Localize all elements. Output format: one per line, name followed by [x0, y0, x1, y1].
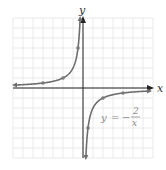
data-point [86, 126, 90, 130]
equation-denominator: x [132, 118, 137, 128]
data-point [101, 96, 105, 100]
data-point [121, 91, 125, 95]
x-axis-label: x [157, 82, 164, 95]
curve-arrow-icon [83, 155, 88, 160]
data-point [61, 76, 65, 80]
curve-branch-left [15, 19, 80, 85]
equation-label: y = − 2 x [100, 106, 140, 128]
equation-sign: − [122, 112, 130, 123]
curve-branch-right [86, 91, 149, 157]
data-point [76, 46, 80, 50]
graph: x y y = − 2 x [0, 0, 166, 170]
equation-equals: = [111, 112, 119, 123]
data-point [41, 81, 45, 85]
y-axis-label: y [78, 4, 86, 17]
equation-numerator: 2 [132, 106, 139, 116]
axes: x y [13, 4, 164, 158]
equation-lhs: y [100, 112, 107, 123]
